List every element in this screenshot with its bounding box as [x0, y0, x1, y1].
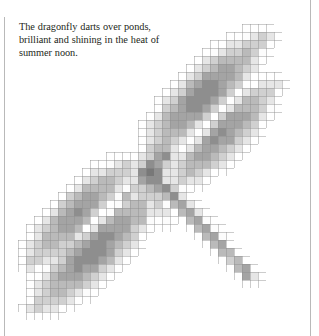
dragonfly-illustration [0, 0, 319, 336]
scanned-page: The dragonfly darts over ponds, brillian… [0, 0, 319, 336]
dragonfly-svg [0, 0, 319, 336]
